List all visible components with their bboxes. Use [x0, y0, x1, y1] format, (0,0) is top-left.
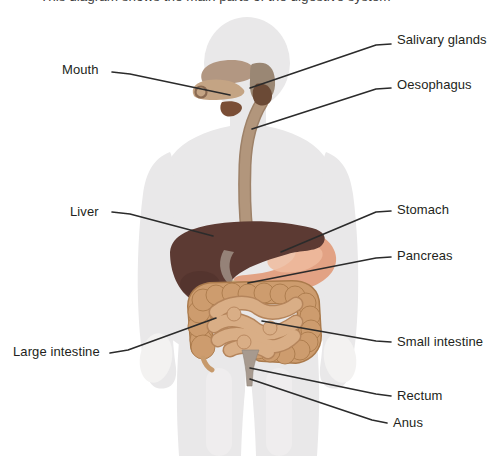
small-intestine-shape: [214, 303, 296, 352]
label-rectum: Rectum: [397, 388, 442, 404]
right-leg-highlight: [266, 368, 292, 456]
label-pancreas: Pancreas: [397, 248, 453, 264]
label-anus: Anus: [393, 415, 423, 431]
label-large-intestine: Large intestine: [13, 344, 100, 360]
label-small-intestine: Small intestine: [397, 334, 483, 350]
label-liver: Liver: [70, 204, 99, 220]
label-stomach: Stomach: [397, 202, 449, 218]
label-salivary-glands: Salivary glands: [397, 32, 487, 48]
digestive-system-figure: This diagram shows the main parts of the…: [0, 0, 497, 456]
left-leg-highlight: [206, 368, 232, 456]
label-oesophagus: Oesophagus: [397, 77, 472, 93]
label-mouth: Mouth: [62, 62, 99, 78]
